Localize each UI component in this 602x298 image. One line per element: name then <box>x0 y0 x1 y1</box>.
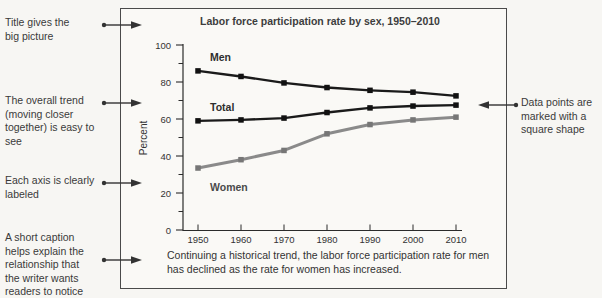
y-tick-label: 0 <box>166 225 171 236</box>
data-point-marker <box>195 118 201 124</box>
series-label-total: Total <box>210 101 234 113</box>
data-point-marker <box>410 103 416 109</box>
data-point-marker <box>281 80 287 86</box>
data-point-marker <box>367 105 373 111</box>
x-tick-label: 1980 <box>316 234 337 245</box>
y-tick-label: 40 <box>160 151 171 162</box>
data-point-marker <box>324 85 330 91</box>
y-tick-label: 20 <box>160 188 171 199</box>
x-tick-label: 1990 <box>359 234 380 245</box>
data-point-marker <box>238 74 244 80</box>
data-point-marker <box>410 89 416 95</box>
data-point-marker <box>281 115 287 121</box>
y-tick-label: 60 <box>160 114 171 125</box>
x-tick-label: 2000 <box>402 234 423 245</box>
figure-page: Title gives the big picture The overall … <box>0 0 602 298</box>
data-point-marker <box>195 165 201 171</box>
data-point-marker <box>453 102 459 108</box>
x-tick-label: 1960 <box>230 234 251 245</box>
chart-plot: 0204060801001950196019701980199020002010 <box>155 40 466 246</box>
data-point-marker <box>238 157 244 163</box>
data-point-marker <box>367 122 373 128</box>
data-point-marker <box>324 110 330 116</box>
data-point-marker <box>410 117 416 123</box>
chart-caption: Continuing a historical trend, the labor… <box>167 248 491 276</box>
data-point-marker <box>324 131 330 137</box>
series-line-women <box>198 117 456 168</box>
data-point-marker <box>453 114 459 120</box>
series-label-women: Women <box>210 181 248 193</box>
data-point-marker <box>453 93 459 99</box>
x-tick-label: 1970 <box>273 234 294 245</box>
series-label-men: Men <box>210 51 231 63</box>
y-tick-label: 100 <box>155 40 171 51</box>
y-tick-label: 80 <box>160 77 171 88</box>
x-tick-label: 1950 <box>187 234 208 245</box>
series-line-men <box>198 71 456 96</box>
data-point-marker <box>195 68 201 74</box>
chart-axes <box>183 44 462 231</box>
x-tick-label: 2010 <box>445 234 466 245</box>
data-point-marker <box>238 117 244 123</box>
y-axis-title: Percent <box>138 121 149 156</box>
data-point-marker <box>367 88 373 94</box>
data-point-marker <box>281 148 287 154</box>
